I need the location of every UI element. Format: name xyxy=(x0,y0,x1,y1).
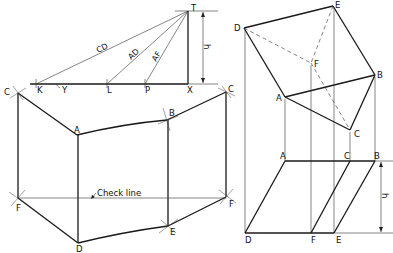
label-af: AF xyxy=(150,49,163,63)
arrowhead-up-icon xyxy=(201,12,205,17)
edge-de xyxy=(78,226,168,243)
label-l: L xyxy=(107,85,112,95)
label-h-left: h xyxy=(202,44,212,49)
label-d-plan: D xyxy=(234,23,241,33)
edge-ab xyxy=(77,120,167,135)
label-t: T xyxy=(190,3,197,13)
true-length-af xyxy=(145,11,188,84)
label-e: E xyxy=(170,227,175,237)
label-b: B xyxy=(169,108,175,118)
label-a-elev: A xyxy=(280,151,286,161)
label-c-right: C xyxy=(228,84,234,94)
edge-de-plan xyxy=(244,6,333,28)
edge-bc-plan xyxy=(350,75,375,130)
true-length-diagram: T K Y L P X h CD AD AF xyxy=(30,3,218,95)
label-p: P xyxy=(145,85,150,95)
hidden-edge-ef xyxy=(311,6,333,63)
arrowhead-down-icon xyxy=(379,227,383,232)
label-c-left: C xyxy=(4,87,10,97)
label-f-elev: F xyxy=(311,235,316,245)
edge-ab-plan xyxy=(285,75,375,97)
label-b-elev: B xyxy=(374,151,380,161)
edge-ca xyxy=(18,93,77,135)
arrowhead-icon xyxy=(91,195,95,199)
edge-da-plan xyxy=(244,28,285,97)
label-c-elev: C xyxy=(344,151,350,161)
edge-bc xyxy=(167,92,226,120)
label-y: Y xyxy=(61,85,68,95)
true-length-ad xyxy=(107,11,188,84)
elevation-view: A C B D F E h xyxy=(245,151,393,245)
label-e-plan: E xyxy=(335,0,340,10)
label-a: A xyxy=(74,125,80,135)
label-h-right: h xyxy=(380,193,390,198)
arrowhead-up-icon xyxy=(379,162,383,167)
label-b-plan: B xyxy=(377,70,383,80)
plan-view: D E F B A C xyxy=(234,0,383,139)
label-f-left: F xyxy=(16,203,21,213)
label-x: X xyxy=(187,85,193,95)
label-cd: CD xyxy=(95,42,110,55)
label-k: K xyxy=(37,85,43,95)
label-c-plan: C xyxy=(354,129,360,139)
edge-cf-elev xyxy=(311,161,350,233)
label-a-plan: A xyxy=(276,93,282,103)
drawing-canvas: T K Y L P X h CD AD AF xyxy=(0,0,393,253)
label-f-right: F xyxy=(229,199,234,209)
arrowhead-down-icon xyxy=(201,78,205,83)
label-f-plan: F xyxy=(314,59,319,69)
true-length-cd xyxy=(36,11,188,84)
edge-ef xyxy=(168,197,226,226)
label-d-elev: D xyxy=(245,235,252,245)
label-d: D xyxy=(76,244,83,253)
edge-ad-elev xyxy=(245,161,285,233)
edge-fd xyxy=(18,198,78,243)
surface-development: C A B C F D E F Check line xyxy=(4,84,236,253)
label-ad: AD xyxy=(126,47,141,61)
edge-be-elev xyxy=(334,161,375,233)
edge-eb-plan xyxy=(333,6,375,75)
label-e-elev: E xyxy=(336,235,341,245)
label-check-line: Check line xyxy=(97,188,141,198)
